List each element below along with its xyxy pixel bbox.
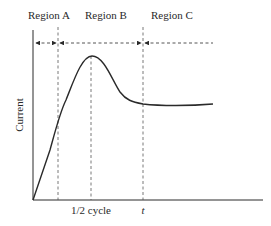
region-a-label: Region A <box>28 9 70 21</box>
region-b-label: Region B <box>85 9 127 21</box>
y-axis-label: Current <box>13 98 25 132</box>
t-label: t <box>141 204 145 216</box>
half-cycle-label: 1/2 cycle <box>71 204 111 216</box>
current-vs-time-diagram: Region A Region B Region C Current 1/2 c… <box>0 0 271 226</box>
region-c-label: Region C <box>151 9 193 21</box>
current-curve <box>33 56 213 200</box>
